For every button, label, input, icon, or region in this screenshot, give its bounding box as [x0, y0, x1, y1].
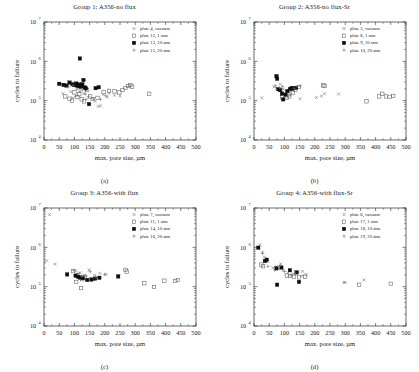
data-point — [89, 270, 92, 273]
data-point — [82, 78, 86, 82]
data-point — [363, 278, 366, 281]
data-point — [85, 278, 89, 282]
x-tick-label: 100 — [280, 329, 289, 336]
data-point — [282, 88, 285, 91]
legend-label: plate 15, 20 atm — [140, 48, 171, 54]
data-point — [388, 95, 391, 98]
y-tick-exponent: 4 — [39, 134, 42, 139]
x-tick-label: 50 — [56, 329, 62, 336]
data-point — [85, 98, 88, 101]
y-tick-label: 10 — [30, 204, 36, 211]
data-point — [97, 85, 101, 89]
x-tick-label: 150 — [85, 329, 94, 336]
data-point — [119, 94, 122, 97]
plot-area-c: 0501001502002503003504004505001041051061… — [0, 186, 209, 372]
chart-panel-d: Group 4: A356-with flux-Sr(d)05010015020… — [210, 186, 419, 372]
y-tick-exponent: 5 — [249, 95, 251, 100]
x-tick-label: 500 — [401, 329, 410, 336]
x-tick-label: 350 — [356, 143, 365, 150]
y-tick-label: 10 — [240, 97, 246, 104]
legend-marker — [133, 27, 136, 30]
legend-marker — [342, 48, 345, 51]
data-point — [87, 102, 91, 106]
data-point — [99, 104, 102, 107]
legend-d: plate 6, vacuumplate 17, 1 atmplate 18, … — [342, 212, 380, 240]
y-axis-title: cycles to failure — [13, 246, 20, 288]
data-point — [176, 278, 179, 281]
x-tick-label: 150 — [295, 329, 304, 336]
legend-label: plate 13, 10 atm — [140, 40, 171, 46]
x-tick-label: 50 — [56, 143, 62, 150]
y-tick-exponent: 5 — [249, 281, 251, 286]
legend-marker — [342, 220, 345, 223]
legend-a: plate 4, vacuumplate 12, 1 atmplate 13, … — [132, 26, 170, 54]
series-1 — [45, 213, 120, 277]
data-point — [357, 283, 360, 286]
data-point — [143, 282, 146, 285]
data-point — [79, 286, 82, 289]
legend-label: plate 9, 10 atm — [350, 40, 378, 46]
data-point — [48, 213, 51, 216]
legend-marker — [133, 213, 136, 216]
figure-panel-grid: Group 1: A356-no flux(a)0501001502002503… — [0, 0, 419, 372]
x-tick-label: 400 — [161, 143, 170, 150]
data-point — [384, 95, 387, 98]
x-tick-label: 0 — [42, 329, 45, 336]
data-point — [261, 252, 264, 255]
data-point — [265, 258, 269, 262]
chart-panel-c: Group 3: A356-with flux(c)05010015020025… — [0, 186, 209, 372]
x-tick-label: 100 — [70, 329, 79, 336]
data-point — [103, 273, 106, 276]
x-axis-title: max. pore size, µm — [95, 340, 146, 347]
x-tick-label: 50 — [266, 329, 272, 336]
data-point — [80, 98, 83, 101]
y-tick-label: 10 — [240, 244, 246, 251]
legend-marker — [342, 234, 345, 237]
data-point — [113, 94, 116, 97]
x-tick-label: 400 — [371, 329, 380, 336]
y-tick-exponent: 7 — [39, 202, 42, 207]
x-tick-label: 250 — [115, 329, 124, 336]
data-point — [53, 263, 56, 266]
legend-marker — [132, 48, 135, 51]
legend-label: plate 12, 1 atm — [140, 33, 168, 39]
legend-label: plate 3, vacuum — [350, 26, 380, 32]
data-point — [320, 95, 323, 98]
x-tick-label: 300 — [131, 143, 140, 150]
data-point — [260, 96, 263, 99]
data-point — [297, 276, 300, 279]
x-tick-label: 350 — [146, 143, 155, 150]
x-tick-label: 450 — [176, 329, 185, 336]
data-point — [174, 279, 177, 282]
x-tick-label: 0 — [42, 143, 45, 150]
legend-marker — [132, 34, 135, 37]
data-point — [75, 280, 78, 283]
legend-label: plate 4, vacuum — [140, 26, 170, 32]
series-3 — [65, 273, 120, 282]
legend-label: plate 19, 20 atm — [350, 234, 381, 240]
legend-label: plate 10, 20 atm — [350, 48, 381, 54]
data-point — [65, 273, 69, 277]
legend-marker — [342, 227, 346, 231]
x-tick-label: 150 — [85, 143, 94, 150]
x-tick-label: 100 — [280, 143, 289, 150]
data-point — [299, 97, 302, 100]
y-tick-label: 10 — [240, 322, 246, 329]
x-tick-label: 0 — [252, 329, 255, 336]
y-tick-exponent: 7 — [249, 202, 252, 207]
x-tick-label: 350 — [146, 329, 155, 336]
data-point — [266, 265, 269, 268]
x-tick-label: 500 — [191, 329, 200, 336]
y-tick-label: 10 — [30, 18, 36, 25]
legend-marker — [342, 41, 346, 45]
y-axis-title: cycles to failure — [13, 60, 20, 102]
data-point — [279, 262, 282, 265]
data-point — [271, 266, 274, 269]
plot-area-d: 0501001502002503003504004505001041051061… — [210, 186, 419, 372]
x-tick-label: 50 — [266, 143, 272, 150]
data-point — [389, 282, 392, 285]
y-tick-label: 10 — [30, 244, 36, 251]
data-point — [279, 83, 282, 86]
data-point — [275, 77, 279, 81]
x-tick-label: 100 — [70, 143, 79, 150]
